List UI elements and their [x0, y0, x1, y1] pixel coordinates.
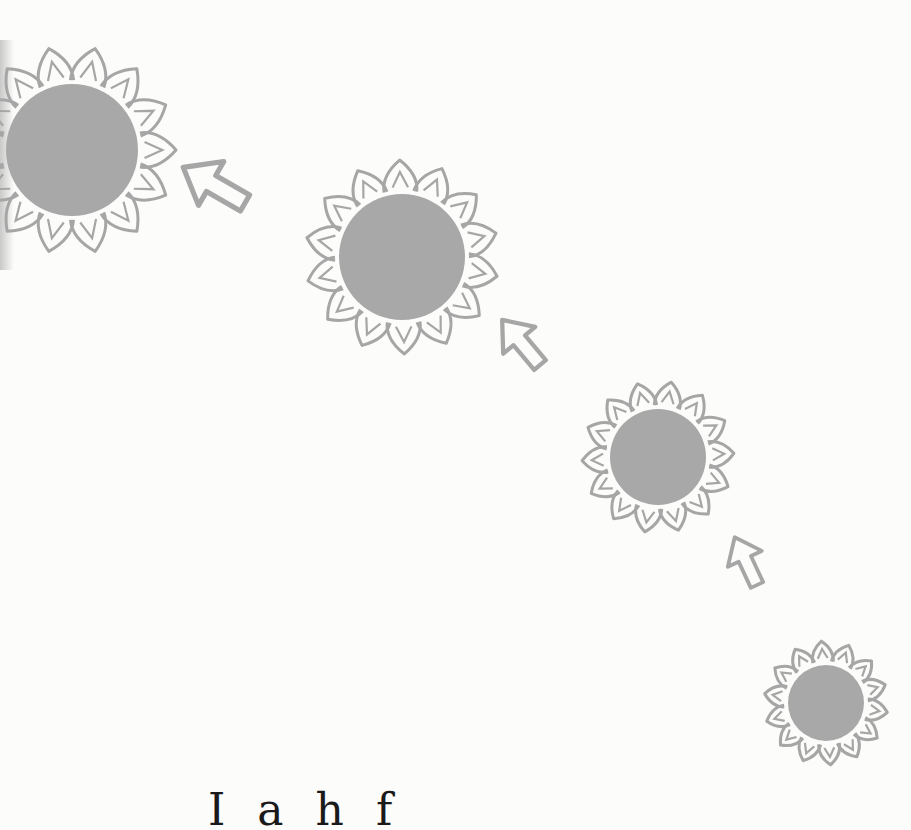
arrow-icon	[718, 529, 774, 593]
arrow-icon	[171, 145, 258, 224]
arrow-icon	[486, 306, 556, 378]
sun-icon	[0, 49, 176, 252]
truncated-caption-text: I a h f	[208, 788, 401, 830]
sun-icon	[765, 641, 888, 765]
sun-icon	[582, 382, 734, 532]
sun-icon	[307, 160, 497, 354]
